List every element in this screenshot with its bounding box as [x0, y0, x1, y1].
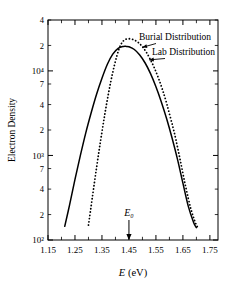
- x-axis-title-unit: (eV): [128, 267, 148, 279]
- y-axis-tick-labels: 10²24710³24710⁴24: [32, 15, 45, 245]
- x-tick-label: 1.35: [94, 245, 110, 255]
- x-tick-label: 1.55: [148, 245, 164, 255]
- x-tick-label: 1.15: [40, 245, 56, 255]
- y-tick-label: 10⁴: [32, 66, 44, 76]
- lab-distribution-label: Lab Distribution: [152, 47, 215, 57]
- y-tick-label: 10²: [32, 235, 44, 245]
- y-tick-label: 10³: [32, 151, 44, 161]
- y-tick-label: 7: [40, 79, 44, 89]
- x-axis-title: E (eV): [118, 267, 148, 279]
- x-tick-label: 1.45: [121, 245, 137, 255]
- x-tick-label: 1.75: [202, 245, 218, 255]
- x-tick-label: 1.25: [67, 245, 83, 255]
- x-tick-label: 1.65: [175, 245, 191, 255]
- y-tick-label: 4: [40, 100, 45, 110]
- electron-density-semilog-chart: 10²24710³24710⁴24 1.151.251.351.451.551.…: [0, 0, 240, 295]
- burial-annotation-arrowhead: [142, 44, 147, 48]
- y-axis-title: Electron Density: [7, 98, 17, 162]
- y-tick-label: 2: [40, 41, 44, 51]
- series-line-burial-distribution: [88, 39, 199, 228]
- y-tick-label: 2: [40, 125, 44, 135]
- x-axis-tick-labels: 1.151.251.351.451.551.651.75: [40, 245, 218, 255]
- chart-figure: 10²24710³24710⁴24 1.151.251.351.451.551.…: [0, 0, 240, 295]
- y-tick-label: 2: [40, 210, 44, 220]
- y-tick-label: 4: [40, 15, 45, 25]
- series-line-lab-distribution: [65, 46, 197, 227]
- y-tick-label: 4: [40, 184, 45, 194]
- e0-label: E₀: [123, 207, 134, 218]
- burial-distribution-label: Burial Distribution: [139, 32, 211, 42]
- e0-arrowhead: [126, 234, 131, 240]
- y-tick-label: 7: [40, 164, 44, 174]
